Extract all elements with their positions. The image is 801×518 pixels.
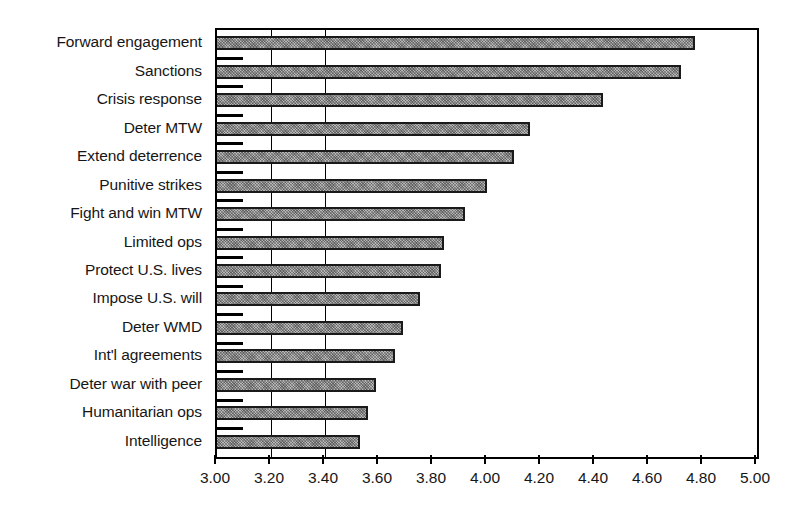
x-axis-tick-label: 3.80	[416, 470, 446, 486]
category-label: Deter war with peer	[70, 376, 202, 392]
category-tick	[217, 427, 243, 430]
category-label: Extend deterrence	[77, 148, 202, 164]
category-label: Intelligence	[125, 433, 202, 449]
category-label: Deter WMD	[122, 319, 202, 335]
bar	[217, 406, 368, 420]
category-axis-labels: Forward engagementSanctionsCrisis respon…	[0, 28, 208, 455]
bar	[217, 179, 487, 193]
category-label: Sanctions	[135, 63, 202, 79]
category-tick	[217, 142, 243, 145]
plot-inner	[217, 30, 757, 457]
category-tick	[217, 285, 243, 288]
category-label: Fight and win MTW	[70, 205, 202, 221]
bar	[217, 321, 403, 335]
bar	[217, 207, 465, 221]
x-axis-tick-label: 4.80	[686, 470, 716, 486]
category-tick	[217, 171, 243, 174]
x-axis-tick-label: 4.60	[632, 470, 662, 486]
category-label: Limited ops	[124, 234, 202, 250]
x-axis-tick	[646, 455, 648, 464]
category-label: Impose U.S. will	[92, 290, 202, 306]
category-tick	[217, 313, 243, 316]
bar	[217, 378, 376, 392]
bar	[217, 122, 530, 136]
category-tick	[217, 342, 243, 345]
x-axis-tick-label: 4.20	[524, 470, 554, 486]
category-label: Punitive strikes	[99, 177, 202, 193]
x-axis-tick	[376, 455, 378, 464]
category-tick	[217, 57, 243, 60]
bar	[217, 93, 603, 107]
x-axis-tick	[754, 455, 756, 464]
x-axis-tick	[322, 455, 324, 464]
bar	[217, 264, 441, 278]
category-label: Deter MTW	[124, 120, 202, 136]
category-tick	[217, 85, 243, 88]
x-axis-tick-label: 3.60	[362, 470, 392, 486]
bar	[217, 435, 360, 449]
bar-chart: Forward engagementSanctionsCrisis respon…	[0, 0, 801, 518]
category-tick	[217, 256, 243, 259]
x-axis-tick-label: 4.40	[578, 470, 608, 486]
x-axis-tick	[268, 455, 270, 464]
category-label: Protect U.S. lives	[85, 262, 202, 278]
x-axis-tick-label: 4.00	[470, 470, 500, 486]
bar	[217, 65, 681, 79]
category-label: Forward engagement	[56, 34, 202, 50]
plot-area	[215, 28, 759, 459]
x-axis-tick	[592, 455, 594, 464]
category-tick	[217, 399, 243, 402]
x-axis-tick	[430, 455, 432, 464]
category-tick	[217, 370, 243, 373]
x-axis-tick	[484, 455, 486, 464]
x-axis-tick	[214, 455, 216, 464]
category-label: Humanitarian ops	[82, 404, 202, 420]
bar	[217, 36, 695, 50]
x-axis-tick	[700, 455, 702, 464]
x-axis-tick-label: 3.20	[254, 470, 284, 486]
x-axis-tick	[538, 455, 540, 464]
category-tick	[217, 114, 243, 117]
x-axis-tick-label: 3.00	[200, 470, 230, 486]
category-label: Crisis response	[97, 91, 202, 107]
bar	[217, 349, 395, 363]
bar	[217, 150, 514, 164]
category-tick	[217, 228, 243, 231]
x-axis-tick-label: 3.40	[308, 470, 338, 486]
category-tick	[217, 199, 243, 202]
category-label: Int'l agreements	[94, 347, 202, 363]
bar	[217, 292, 420, 306]
bar	[217, 236, 444, 250]
x-axis-tick-label: 5.00	[740, 470, 770, 486]
